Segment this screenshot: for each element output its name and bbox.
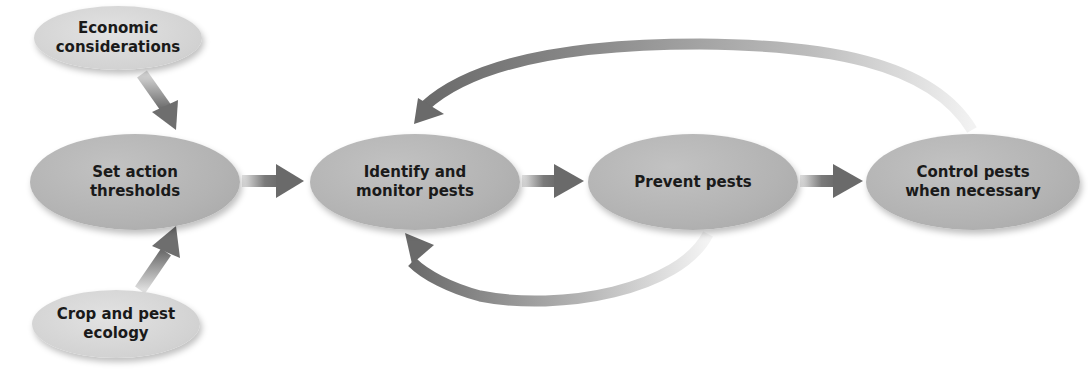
arrow-economic-to-thresholds — [142, 74, 178, 130]
node-label: Crop and pest ecology — [57, 305, 175, 343]
node-label: Identify and monitor pests — [356, 163, 474, 201]
node-label: Prevent pests — [634, 173, 752, 192]
node-economic-considerations: Economic considerations — [34, 6, 202, 70]
arrow-prevent-to-identify — [405, 233, 708, 301]
node-label: Set action thresholds — [90, 163, 180, 201]
node-crop-pest-ecology: Crop and pest ecology — [32, 290, 200, 358]
arrow-ecology-to-thresholds — [140, 226, 180, 290]
node-identify-monitor-pests: Identify and monitor pests — [310, 134, 520, 230]
arrow-prevent-to-control — [800, 164, 863, 198]
arrow-identify-to-prevent — [522, 164, 584, 198]
node-control-pests: Control pests when necessary — [866, 134, 1080, 230]
arrow-thresholds-to-identify — [242, 164, 304, 198]
node-set-action-thresholds: Set action thresholds — [30, 134, 240, 230]
node-label: Economic considerations — [56, 19, 181, 57]
node-prevent-pests: Prevent pests — [588, 134, 798, 230]
arrow-control-to-identify — [414, 44, 972, 130]
node-label: Control pests when necessary — [905, 163, 1041, 201]
